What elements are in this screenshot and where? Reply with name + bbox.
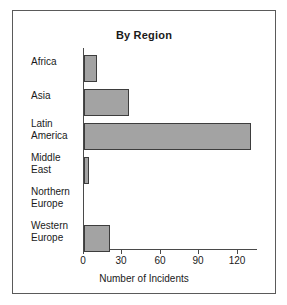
x-tick-120 [237, 249, 238, 254]
x-tick-label-60: 60 [145, 255, 175, 266]
chart-title: By Region [13, 29, 275, 41]
bar-middle-east [84, 157, 89, 184]
x-tick-30 [121, 249, 122, 254]
x-axis-title: Number of Incidents [13, 273, 275, 284]
bar-fill-africa [84, 55, 97, 82]
x-tick-90 [198, 249, 199, 254]
x-tick-0 [83, 249, 84, 254]
plot-area: 0 30 60 90 120 [83, 48, 256, 249]
bar-western-europe [84, 225, 110, 252]
bar-fill-latin-america [84, 123, 251, 150]
x-tick-label-30: 30 [106, 255, 136, 266]
chart-frame: By Region Africa Asia LatinAmerica Middl… [12, 10, 276, 294]
bar-asia [84, 89, 129, 116]
bar-africa [84, 55, 97, 82]
x-tick-label-90: 90 [183, 255, 213, 266]
bar-fill-middle-east [84, 157, 89, 184]
x-tick-label-120: 120 [222, 255, 252, 266]
x-tick-label-0: 0 [68, 255, 98, 266]
bar-latin-america [84, 123, 251, 150]
bar-fill-western-europe [84, 225, 110, 252]
bar-fill-asia [84, 89, 129, 116]
x-tick-60 [160, 249, 161, 254]
